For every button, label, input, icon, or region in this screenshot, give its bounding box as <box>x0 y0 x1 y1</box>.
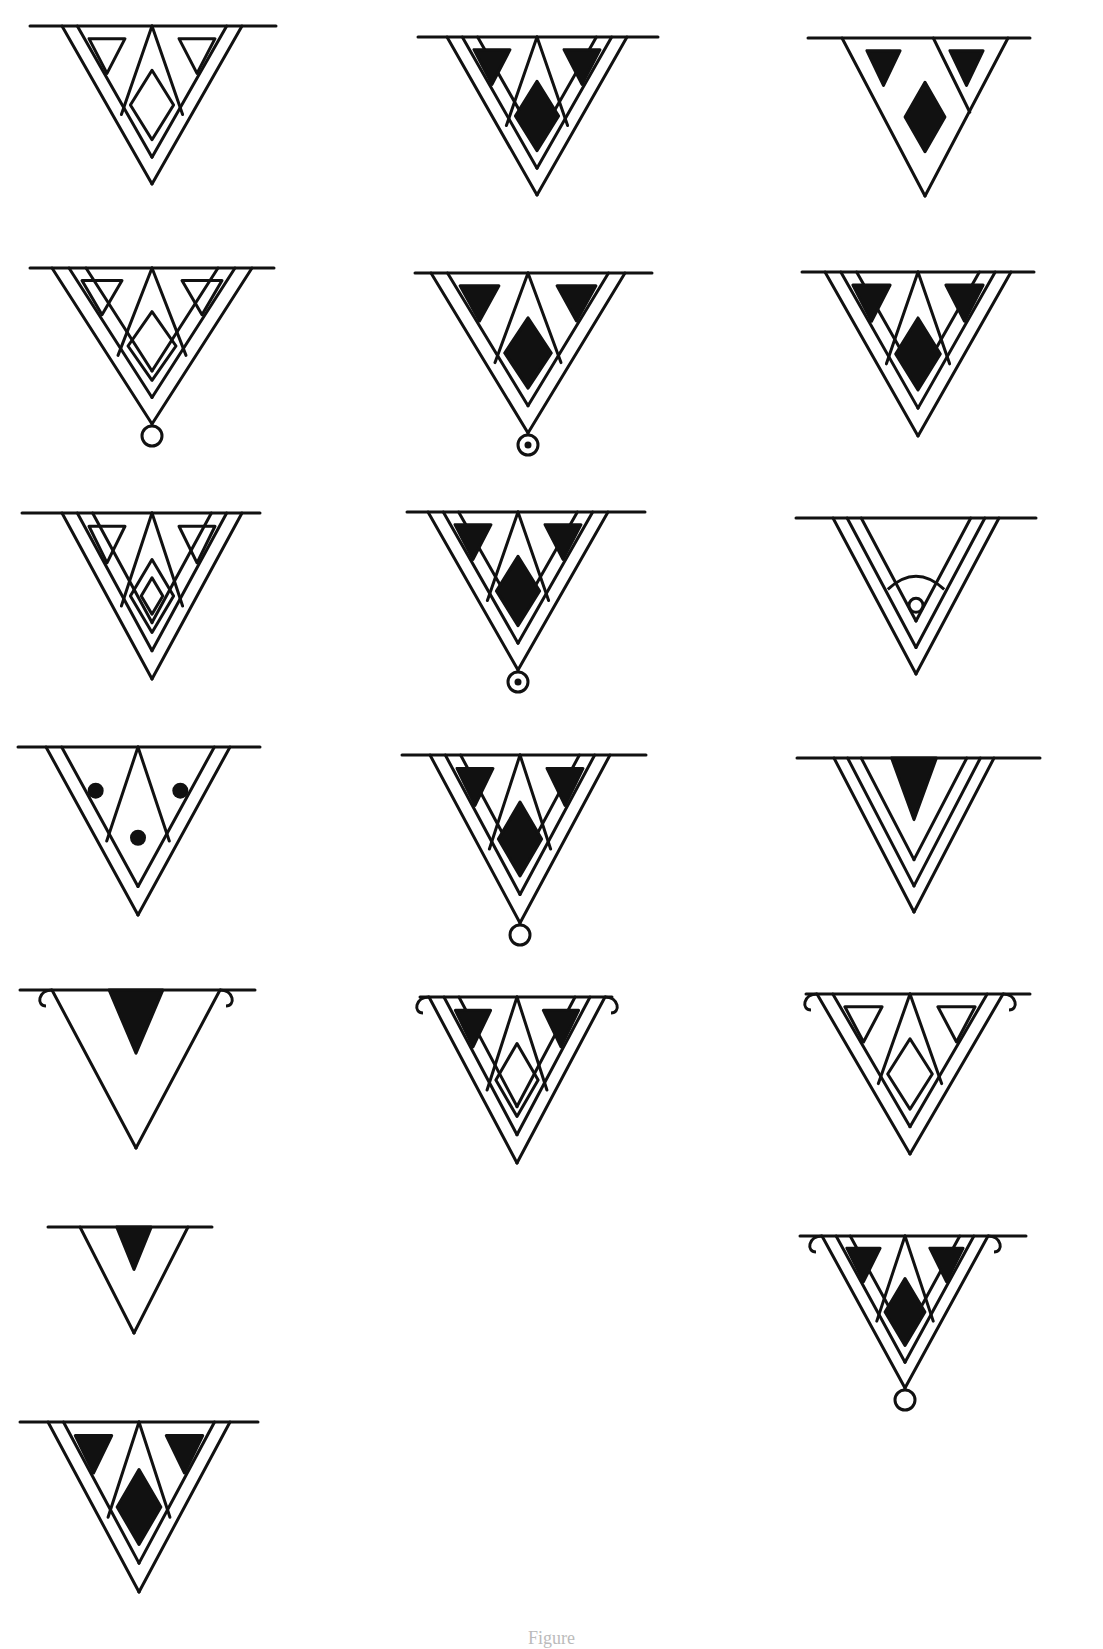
motif-16 <box>48 1227 212 1333</box>
arc <box>888 576 944 589</box>
band-left-1 <box>69 268 152 397</box>
motif-10 <box>18 747 260 915</box>
pendant-ring <box>510 925 530 945</box>
motif-3 <box>808 38 1030 196</box>
curl-right-icon <box>988 1236 1000 1252</box>
curl-left-icon <box>810 1236 822 1252</box>
motif-7 <box>22 513 260 679</box>
outer-left-edge <box>46 747 138 915</box>
band-right-1 <box>152 26 227 157</box>
motif-14 <box>417 997 618 1163</box>
motif-12 <box>797 758 1040 912</box>
band-left-1 <box>833 994 910 1127</box>
left-dot <box>88 783 104 799</box>
left-triangle-solid <box>867 51 900 86</box>
pendant-ring <box>895 1390 915 1410</box>
band-right-1 <box>152 513 227 651</box>
curl-right-icon <box>605 997 617 1013</box>
motif-2 <box>418 37 658 195</box>
outer-right-edge <box>910 994 1003 1154</box>
pendant-dot <box>515 679 522 686</box>
pendant-dot <box>525 442 532 449</box>
divider-right <box>138 747 169 841</box>
small-ring <box>909 598 923 612</box>
band-left-1 <box>847 518 916 647</box>
motif-18 <box>20 1422 258 1592</box>
center-diamond-solid <box>905 82 945 152</box>
divider-left <box>107 747 138 841</box>
band-right-1 <box>138 747 214 886</box>
top-wedge-solid <box>117 1227 152 1269</box>
motif-5 <box>415 273 652 455</box>
outer-right-edge <box>138 747 230 915</box>
outer-right-edge <box>152 26 242 184</box>
pendant-ring <box>142 426 162 446</box>
motif-15 <box>805 994 1030 1154</box>
band-left-1 <box>62 747 138 886</box>
motif-8 <box>407 512 645 692</box>
motif-6 <box>802 272 1034 436</box>
figure-caption: Figure <box>0 1628 1103 1649</box>
curl-left-icon <box>40 990 52 1006</box>
band-right-1 <box>152 268 235 397</box>
motif-13 <box>20 990 255 1148</box>
band-left-1 <box>77 26 152 157</box>
curl-right-icon <box>220 990 232 1006</box>
motif-1 <box>30 26 276 184</box>
curl-right-icon <box>1003 994 1015 1010</box>
curl-left-icon <box>417 997 429 1013</box>
motif-17 <box>800 1236 1026 1410</box>
outer-left-edge <box>817 994 910 1154</box>
top-wedge-solid <box>109 990 163 1053</box>
center-dot <box>130 830 146 846</box>
outer-left-edge <box>62 26 152 184</box>
band-left-1 <box>77 513 152 651</box>
band-right-1 <box>916 518 985 647</box>
motif-4 <box>30 268 274 446</box>
right-dot <box>172 783 188 799</box>
motif-9 <box>796 518 1036 674</box>
band-right-1 <box>910 994 987 1127</box>
motif-11 <box>402 755 646 945</box>
curl-left-icon <box>805 994 817 1010</box>
top-wedge-solid <box>892 758 937 820</box>
